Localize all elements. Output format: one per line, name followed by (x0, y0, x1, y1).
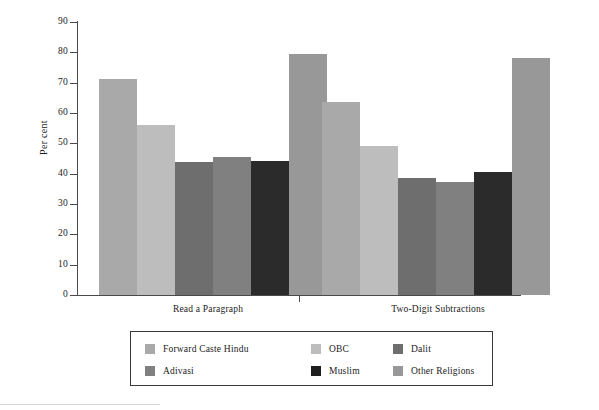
legend-swatch-icon (145, 344, 155, 354)
legend-label: Dalit (411, 344, 431, 354)
legend-label: Muslim (329, 366, 360, 376)
bar-other-religions-two-digit-subtractions (512, 58, 550, 295)
bar-adivasi-two-digit-subtractions (436, 182, 474, 295)
y-tick-mark-90 (70, 22, 77, 23)
legend-row-1: AdivasiMuslimOther Religions (131, 360, 494, 382)
page-edge-artifact (0, 404, 160, 405)
y-tick-mark-60 (70, 113, 77, 114)
legend-item-adivasi[interactable]: Adivasi (145, 360, 194, 382)
legend-item-muslim[interactable]: Muslim (311, 360, 360, 382)
legend-label: Adivasi (163, 366, 194, 376)
y-tick-label-90: 90 (44, 17, 68, 27)
group-separator-tick (299, 296, 300, 302)
y-tick-mark-30 (70, 204, 77, 205)
bar-dalit-two-digit-subtractions (398, 178, 436, 295)
y-tick-mark-10 (70, 265, 77, 266)
bar-obc-two-digit-subtractions (360, 146, 398, 295)
x-axis-group-label-0: Read a Paragraph (118, 304, 298, 314)
legend-row-0: Forward Caste HinduOBCDalit (131, 338, 494, 360)
y-tick-label-50: 50 (44, 138, 68, 148)
y-tick-label-70: 70 (44, 78, 68, 88)
bar-forward-caste-hindu-two-digit-subtractions (322, 102, 360, 295)
y-tick-label-0: 0 (44, 290, 68, 300)
y-tick-mark-80 (70, 52, 77, 53)
y-tick-mark-0 (70, 295, 77, 296)
bar-forward-caste-hindu-read-a-paragraph (99, 79, 137, 295)
y-tick-label-60: 60 (44, 108, 68, 118)
chart-legend: Forward Caste HinduOBCDalitAdivasiMuslim… (130, 331, 493, 386)
x-axis-group-label-1: Two-Digit Subtractions (338, 304, 538, 314)
legend-swatch-icon (393, 344, 403, 354)
legend-swatch-icon (311, 344, 321, 354)
y-tick-mark-70 (70, 83, 77, 84)
y-tick-mark-20 (70, 234, 77, 235)
legend-swatch-icon (311, 366, 321, 376)
bar-adivasi-read-a-paragraph (213, 157, 251, 295)
y-tick-label-40: 40 (44, 169, 68, 179)
y-tick-label-10: 10 (44, 260, 68, 270)
y-tick-mark-50 (70, 143, 77, 144)
y-tick-label-20: 20 (44, 229, 68, 239)
legend-item-obc[interactable]: OBC (311, 338, 349, 360)
y-tick-mark-40 (70, 174, 77, 175)
bar-muslim-two-digit-subtractions (474, 172, 512, 295)
y-tick-label-80: 80 (44, 47, 68, 57)
plot-area (77, 22, 520, 295)
legend-item-other-religions[interactable]: Other Religions (393, 360, 474, 382)
bar-muslim-read-a-paragraph (251, 161, 289, 295)
legend-swatch-icon (393, 366, 403, 376)
legend-label: Other Religions (411, 366, 474, 376)
legend-label: Forward Caste Hindu (163, 344, 249, 354)
legend-label: OBC (329, 344, 349, 354)
legend-swatch-icon (145, 366, 155, 376)
bar-obc-read-a-paragraph (137, 125, 175, 295)
legend-item-forward-caste-hindu[interactable]: Forward Caste Hindu (145, 338, 249, 360)
bar-dalit-read-a-paragraph (175, 162, 213, 295)
y-tick-label-30: 30 (44, 199, 68, 209)
legend-item-dalit[interactable]: Dalit (393, 338, 431, 360)
bar-chart-figure: Per cent 9080706050403020100 Read a Para… (0, 0, 599, 410)
